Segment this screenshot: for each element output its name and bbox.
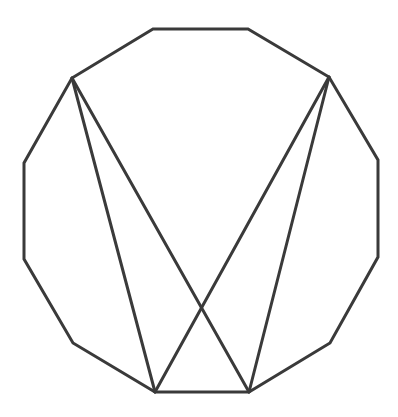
diagram-canvas [0, 0, 398, 417]
diagonal-upper-left-to-bottom-left [72, 78, 155, 392]
diagonal-upper-left-to-bottom-right [72, 78, 249, 392]
diagonal-upper-right-to-bottom-left [155, 77, 329, 392]
diagonals-group [72, 77, 329, 392]
dodecagon-diagram [0, 0, 398, 417]
diagonal-upper-right-to-bottom-right [249, 77, 329, 392]
